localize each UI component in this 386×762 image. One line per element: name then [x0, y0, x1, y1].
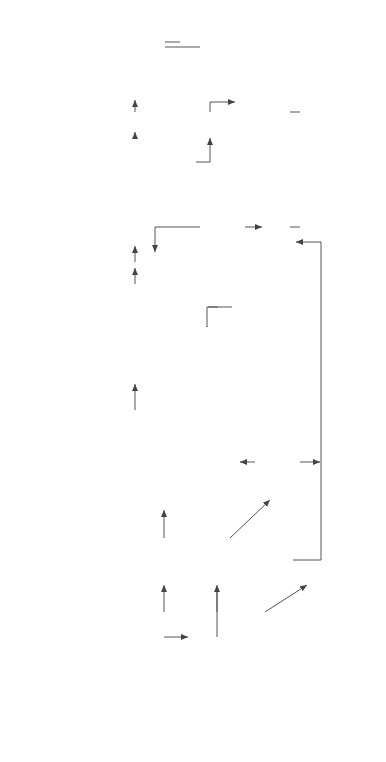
connector-lines — [0, 0, 386, 762]
flowchart — [0, 0, 386, 762]
